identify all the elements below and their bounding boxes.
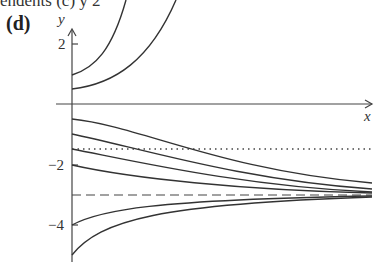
curve-y0-0.5 <box>72 0 176 89</box>
x-axis-label: x <box>363 108 371 124</box>
curve-y0-neg1 <box>72 134 372 189</box>
y-axis-label: y <box>56 11 65 27</box>
solution-curves <box>72 0 372 255</box>
axes <box>56 29 372 262</box>
curve-y0-neg5 <box>72 197 372 255</box>
y-tick-label-2: 2 <box>58 36 66 52</box>
y-tick-label-neg2: −2 <box>48 157 64 173</box>
curve-y0-1 <box>72 0 126 75</box>
curve-y0-neg4 <box>72 196 372 225</box>
direction-field-chart: y x 2 −2 −4 <box>0 0 376 265</box>
y-tick-label-neg4: −4 <box>48 217 64 233</box>
